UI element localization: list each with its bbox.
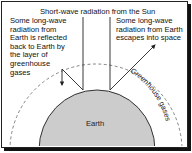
reflected-annotation: Some long-wave radiation from Earth is r…	[10, 17, 72, 77]
escape-annotation: Some long-wave radiation from Earth esca…	[116, 17, 192, 43]
earth-label: Earth	[86, 119, 104, 128]
